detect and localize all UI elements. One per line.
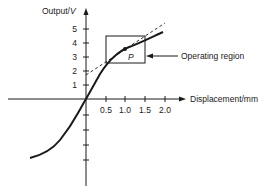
x-axis-label: Displacement/mm	[190, 94, 258, 104]
x-tick-label: 0.5	[100, 105, 112, 115]
x-tick-label: 2.0	[159, 105, 171, 115]
diagram-canvas: 1 2 3 4 5 0.5 1.0 1.5 2.0 Output/V Displ…	[0, 0, 273, 196]
x-axis-arrow-icon	[179, 97, 186, 102]
y-tick-label: 4	[72, 38, 77, 48]
x-tick-label: 1.0	[119, 105, 131, 115]
y-tick-label: 1	[72, 80, 77, 90]
operating-point-marker	[123, 47, 127, 51]
y-tick-label: 5	[72, 24, 77, 34]
y-tick-label: 3	[72, 52, 77, 62]
characteristic-curve	[30, 32, 163, 158]
x-tick-label: 1.5	[139, 105, 151, 115]
operating-point-label: P	[128, 52, 134, 62]
region-pointer-arrow-icon	[146, 54, 153, 59]
operating-region-label: Operating region	[181, 51, 245, 61]
y-axis-arrow-icon	[84, 8, 89, 15]
y-tick-label: 2	[72, 66, 77, 76]
y-axis-label: Output/V	[42, 6, 77, 16]
